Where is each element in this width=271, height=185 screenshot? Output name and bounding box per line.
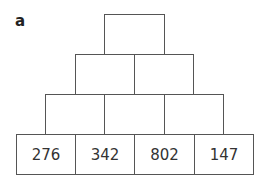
pyramid-cell-top [104,14,165,55]
pyramid-base-cell: 147 [194,134,254,175]
pyramid-cell [45,94,105,135]
pyramid-base-cell: 802 [134,134,195,175]
pyramid-base-cell: 276 [16,134,76,175]
pyramid-cell [104,94,165,135]
pyramid-cell [164,94,224,135]
pyramid-base-cell: 342 [75,134,135,175]
pyramid-cell [75,54,135,95]
pyramid-cell [134,54,194,95]
question-label: a [15,12,25,30]
